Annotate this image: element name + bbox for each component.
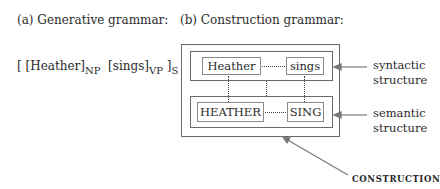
syntactic-arrow-head-icon	[334, 64, 341, 70]
construction-arrow-head-icon	[283, 137, 290, 143]
semantic-structure-label: semantic structure	[373, 106, 427, 136]
syntactic-structure-label: syntactic structure	[373, 58, 427, 88]
construction-arrow	[286, 139, 348, 175]
construction-label: CONSTRUCTION	[352, 174, 440, 184]
semantic-arrow-head-icon	[334, 112, 341, 118]
